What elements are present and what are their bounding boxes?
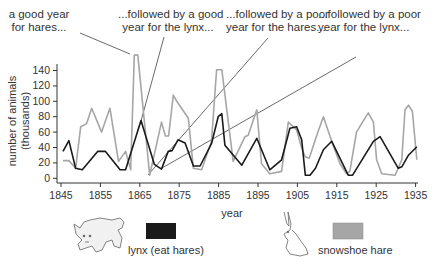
pointer-line-poor-hares [148, 38, 268, 175]
x-ticks: 1845185518651875188518951905191519251935 [49, 183, 427, 201]
hare-legend-label: snowshoe hare [318, 244, 393, 256]
y-tick-label: 0 [44, 172, 50, 184]
population-chart: 020406080100120140 184518551865187518851… [0, 0, 435, 262]
annotation-text-line: ...followed by a poor [226, 8, 326, 21]
hare-legend-swatch [333, 223, 363, 239]
x-tick-label: 1875 [168, 189, 192, 201]
annotation-text-line: year for the hares... [226, 21, 326, 34]
x-tick-label: 1905 [286, 189, 310, 201]
lynx-legend-swatch [146, 223, 176, 239]
annotation-good-year-hares: a good year for hares... [4, 8, 74, 34]
y-axis-title-line2: (thousands) [19, 92, 31, 150]
annotation-text-line: year for the lynx... [318, 21, 428, 34]
lynx-illustration-icon [74, 218, 124, 252]
y-tick-label: 40 [38, 141, 50, 153]
x-tick-label: 1885 [207, 189, 231, 201]
annotation-pointer-lines [80, 33, 356, 175]
annotation-good-year-lynx: ...followed by a good year for the lynx.… [118, 8, 218, 34]
annotation-text-line: for hares... [4, 21, 74, 34]
y-tick-label: 20 [38, 156, 50, 168]
y-ticks: 020406080100120140 [32, 64, 57, 184]
annotation-text-line: ...followed by a good [118, 8, 218, 21]
y-tick-label: 60 [38, 126, 50, 138]
y-axis-title-line1: number of animals [6, 75, 18, 166]
x-tick-label: 1895 [246, 189, 270, 201]
x-tick-label: 1935 [404, 189, 428, 201]
x-tick-label: 1845 [49, 189, 73, 201]
hare-illustration-icon [284, 212, 308, 256]
y-tick-label: 140 [32, 64, 50, 76]
annotation-poor-year-hares: ...followed by a poor year for the hares… [226, 8, 326, 34]
x-tick-label: 1855 [89, 189, 113, 201]
x-axis-title: year [221, 207, 243, 219]
x-tick-label: 1925 [365, 189, 389, 201]
annotation-poor-year-lynx: ...followed by a poor year for the lynx.… [318, 8, 428, 34]
annotation-text-line: ...followed by a poor [318, 8, 428, 21]
y-tick-label: 80 [38, 110, 50, 122]
pointer-line-good-hares [80, 33, 130, 54]
x-tick-label: 1915 [325, 189, 349, 201]
y-tick-label: 120 [32, 79, 50, 91]
y-tick-label: 100 [32, 95, 50, 107]
x-tick-label: 1865 [128, 189, 152, 201]
annotation-text-line: a good year [4, 8, 74, 21]
lynx-legend-label: lynx (eat hares) [128, 244, 204, 256]
y-axis-title: number of animals (thousands) [6, 75, 31, 166]
annotation-text-line: year for the lynx... [118, 21, 218, 34]
pointer-line-good-lynx [141, 37, 164, 121]
